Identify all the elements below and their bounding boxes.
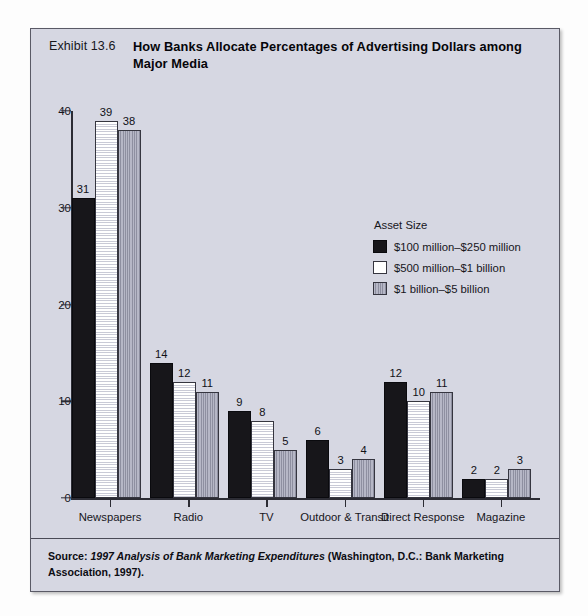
source-note: Source: 1997 Analysis of Bank Marketing … <box>48 548 542 580</box>
legend-swatch-icon-0 <box>373 240 387 253</box>
x-axis-tick-mark-5 <box>501 499 502 507</box>
x-axis-tick-mark-1 <box>188 499 189 507</box>
bar-value-label-5-2: 3 <box>500 454 540 466</box>
bar-4-1 <box>407 401 430 498</box>
legend-item-2: $1 billion–$5 billion <box>373 278 521 299</box>
y-axis-tick-mark-2 <box>61 304 71 305</box>
chart-legend: Asset Size $100 million–$250 million $50… <box>373 219 521 299</box>
x-axis-tick-mark-0 <box>110 499 111 507</box>
bar-1-1 <box>173 382 196 498</box>
bar-3-1 <box>329 469 352 498</box>
bar-value-label-1-2: 11 <box>187 377 227 389</box>
bar-value-label-3-2: 4 <box>344 444 384 456</box>
source-title-italic: 1997 Analysis of Bank Marketing Expendit… <box>90 550 325 562</box>
legend-label-2: $1 billion–$5 billion <box>394 283 489 295</box>
legend-item-1: $500 million–$1 billion <box>373 257 521 278</box>
legend-swatch-icon-2 <box>373 282 387 295</box>
y-axis-tick-mark-1 <box>61 401 71 402</box>
bar-4-2 <box>430 392 453 498</box>
source-prefix: Source: <box>48 550 90 562</box>
bar-1-0 <box>150 363 173 498</box>
bar-0-1 <box>95 121 118 498</box>
x-axis-category-label-5: Magazine <box>451 511 551 525</box>
y-axis-tick-mark-4 <box>61 110 71 111</box>
bar-5-1 <box>485 479 508 498</box>
bar-2-2 <box>274 450 297 498</box>
screenshot-page: Exhibit 13.6 How Banks Allocate Percenta… <box>0 0 588 616</box>
bar-3-0 <box>306 440 329 498</box>
x-axis-tick-mark-4 <box>423 499 424 507</box>
bar-5-2 <box>508 469 531 498</box>
x-axis-tick-mark-3 <box>345 499 346 507</box>
legend-item-0: $100 million–$250 million <box>373 236 521 257</box>
legend-label-0: $100 million–$250 million <box>394 241 521 253</box>
legend-label-1: $500 million–$1 billion <box>394 262 505 274</box>
bar-2-0 <box>228 411 251 498</box>
bar-5-0 <box>462 479 485 498</box>
legend-title: Asset Size <box>373 219 521 231</box>
bar-2-1 <box>251 421 274 498</box>
bar-value-label-4-2: 11 <box>422 377 462 389</box>
x-axis-tick-mark-2 <box>266 499 267 507</box>
bar-4-0 <box>384 382 407 498</box>
bar-value-label-2-1: 8 <box>242 406 282 418</box>
bar-0-2 <box>118 130 141 498</box>
bar-value-label-4-0: 12 <box>376 367 416 379</box>
bar-value-label-0-2: 38 <box>109 115 149 127</box>
bar-value-label-3-0: 6 <box>298 425 338 437</box>
y-axis-tick-mark-0 <box>61 497 71 498</box>
exhibit-box: Exhibit 13.6 How Banks Allocate Percenta… <box>30 28 560 592</box>
x-axis-line <box>71 498 540 500</box>
source-divider <box>31 538 559 539</box>
legend-swatch-icon-1 <box>373 261 387 274</box>
bar-3-2 <box>352 459 375 498</box>
bar-1-2 <box>196 392 219 498</box>
y-axis-tick-mark-3 <box>61 207 71 208</box>
bar-0-0 <box>72 198 95 498</box>
bar-value-label-1-0: 14 <box>141 348 181 360</box>
